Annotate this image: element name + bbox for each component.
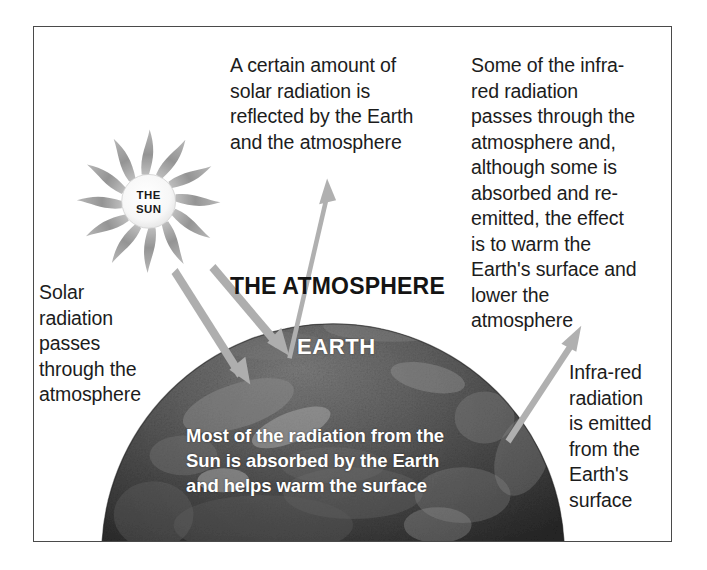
- label-the-atmosphere: THE ATMOSPHERE: [230, 273, 445, 300]
- sun-graphic: THE SUN: [77, 130, 221, 273]
- diagram-page: THE SUN: [0, 0, 707, 570]
- diagram-stage: THE SUN: [34, 27, 671, 541]
- label-earth: EARTH: [297, 334, 376, 360]
- sun-label-line2: SUN: [136, 203, 161, 215]
- caption-solar-radiation-passes: Solar radiation passes through the atmos…: [39, 280, 184, 408]
- label-absorbed-overlay: Most of the radiation from the Sun is ab…: [186, 423, 444, 498]
- caption-infrared-through-atmosphere: Some of the infra- red radiation passes …: [471, 53, 672, 334]
- diagram-frame: THE SUN: [33, 26, 672, 542]
- sun-label-line1: THE: [137, 189, 161, 201]
- caption-infrared-emitted: Infra-red radiation is emitted from the …: [569, 360, 672, 513]
- caption-reflected-radiation: A certain amount of solar radiation is r…: [230, 53, 450, 155]
